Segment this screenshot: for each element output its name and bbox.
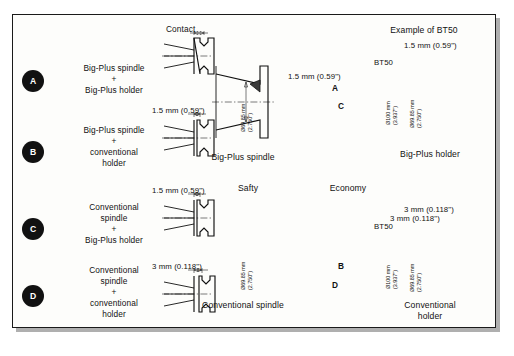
holder-taper-dia-upper-inch: (2.750")	[416, 109, 422, 128]
holder-flange-dia-lower: Ø100 mm	[385, 265, 391, 289]
holder-gap-label-lower: 3 mm (0.118")	[404, 205, 454, 215]
marker-d: D	[332, 280, 338, 290]
diagram-root: A Big-Plus spindle + Big-Plus holder B B…	[0, 0, 514, 356]
holder-taper-dia-lower: Ø69.85 mm	[409, 264, 415, 292]
axis-label-economy: Economy	[330, 183, 367, 193]
holder-taper-label-upper: BT50	[374, 58, 393, 68]
holder-caption-upper: Big-Plus holder	[400, 149, 460, 159]
holder-gap-label-upper: 1.5 mm (0.59")	[404, 41, 457, 51]
marker-c: C	[338, 101, 344, 111]
spindle-gap-label-lower: 3 mm (0.118")	[390, 214, 440, 224]
holder-taper-dia-lower-inch: (2.750")	[416, 273, 422, 292]
holder-caption-lower-line2: holder	[418, 311, 443, 321]
spindle-dia-lower: Ø69.85 mm	[240, 262, 246, 290]
holder-flange-dia-upper-inch: (3.937")	[392, 106, 398, 125]
example-title: Example of BT50	[390, 25, 457, 35]
spindle-gap-label-upper: 1.5 mm (0.59")	[288, 72, 341, 82]
spindle-dia-lower-inch: (2.750")	[247, 271, 253, 290]
spindle-caption-big-plus: Big-Plus spindle	[211, 152, 274, 162]
spindle-caption-conventional-line1: Conventional spindle	[202, 300, 284, 310]
axis-label-safty: Safty	[238, 183, 258, 193]
holder-flange-dia-upper: Ø100 mm	[385, 101, 391, 125]
marker-a: A	[332, 83, 338, 93]
spindle-dia-upper: Ø69.85 mm	[240, 104, 246, 132]
holder-flange-dia-lower-inch: (3.937")	[392, 270, 398, 289]
spindle-dia-upper-inch: (2.750")	[247, 113, 253, 132]
holder-taper-dia-upper: Ø69.85 mm	[409, 100, 415, 128]
marker-b: B	[338, 261, 344, 271]
holder-caption-lower-line1: Conventional	[404, 300, 455, 310]
holder-taper-label-lower: BT50	[374, 222, 393, 232]
